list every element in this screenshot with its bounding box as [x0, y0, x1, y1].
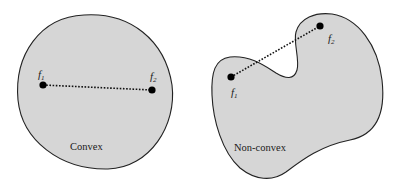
- convex-point-f2: [148, 86, 155, 93]
- non-convex-caption: Non-convex: [234, 142, 287, 153]
- non-convex-panel: f1 f2 Non-convex: [212, 14, 383, 179]
- convex-panel: f1 f2 Convex: [18, 15, 173, 169]
- non-convex-point-f2: [316, 22, 323, 29]
- non-convex-point-f1: [227, 73, 234, 80]
- convex-caption: Convex: [70, 141, 103, 152]
- convexity-diagram: f1 f2 Convex f1 f2 Non-convex: [0, 0, 399, 187]
- convex-point-f1: [39, 81, 46, 88]
